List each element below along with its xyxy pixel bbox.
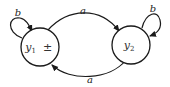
- node-y2: y2: [112, 26, 150, 64]
- node-y1: y1 ±: [21, 28, 59, 66]
- self-loop-y1-label: b: [15, 7, 21, 18]
- node-y2-subscript: 2: [130, 45, 134, 53]
- automaton-diagram: a a b b y1 ± y2: [0, 0, 170, 87]
- node-y1-initial-final-marker: ±: [43, 41, 52, 54]
- self-loop-y2-label: b: [150, 3, 156, 14]
- edge-y1-to-y2-label: a: [80, 5, 86, 16]
- node-y1-subscript: 1: [32, 47, 36, 55]
- edge-y2-to-y1-label: a: [87, 74, 93, 85]
